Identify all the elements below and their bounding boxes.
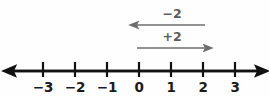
jump-arrows-group (137, 25, 205, 48)
number-line-figure: −3−2−10123 −2+2 (0, 0, 269, 98)
number-line-canvas (0, 0, 269, 98)
tick-marks-group (43, 62, 235, 77)
